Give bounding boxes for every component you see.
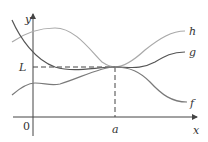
curve-f xyxy=(12,67,187,102)
curve-h xyxy=(12,28,185,67)
squeeze-theorem-diagram: y x 0 L a h g f xyxy=(0,0,208,142)
curve-g xyxy=(12,20,185,70)
origin-label: 0 xyxy=(23,120,30,133)
limit-label: L xyxy=(18,61,26,74)
diagram-canvas: y x 0 L a h g f xyxy=(0,0,208,142)
curve-g-label: g xyxy=(189,46,196,59)
point-a-label: a xyxy=(112,123,119,136)
x-axis-label: x xyxy=(193,124,200,137)
curve-f-label: f xyxy=(189,97,196,110)
curve-h-label: h xyxy=(189,25,196,38)
y-axis-label: y xyxy=(24,13,32,26)
